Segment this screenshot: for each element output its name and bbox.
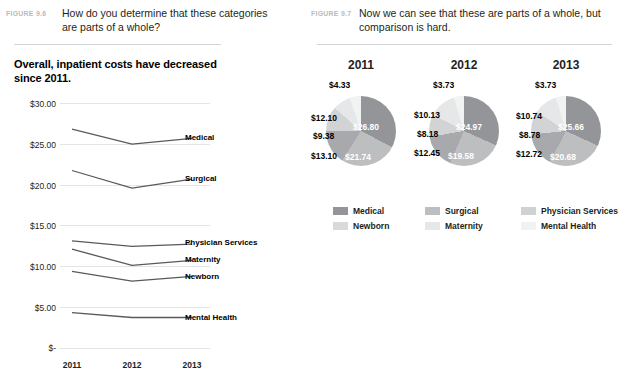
pie-value-surgical-2012: $19.58	[448, 151, 474, 161]
series-label-physician-services: Physician Services	[185, 238, 258, 247]
pie-value-maternity-2011: $12.10	[311, 113, 337, 123]
legend-item-surgical: Surgical	[425, 206, 521, 216]
pie-value-mental-health-2011: $4.33	[329, 80, 350, 90]
legend-item-mental-health: Mental Health	[521, 221, 622, 231]
legend-label-maternity: Maternity	[445, 221, 483, 231]
legend-swatch-medical	[333, 207, 348, 215]
line-series-svg	[0, 0, 311, 386]
pie-value-physician-services-2013: $12.72	[516, 149, 542, 159]
line-chart: $30.00 $25.00 $20.00 $15.00 $10.00 $5.00…	[0, 0, 311, 386]
legend-label-surgical: Surgical	[445, 206, 479, 216]
pie-value-physician-services-2012: $12.45	[414, 148, 440, 158]
pie-value-newborn-2013: $8.78	[519, 130, 540, 140]
pie-value-physician-services-2011: $13.10	[311, 151, 337, 161]
pie-legend: Medical Surgical Physician Services Newb…	[333, 203, 622, 233]
figure-9-7-panel: FIGURE 9.7 Now we can see that these are…	[311, 0, 622, 386]
legend-item-maternity: Maternity	[425, 221, 521, 231]
legend-swatch-physician-services	[521, 207, 536, 215]
legend-label-mental-health: Mental Health	[541, 221, 596, 231]
legend-label-newborn: Newborn	[353, 221, 389, 231]
x-tick-2012: 2012	[112, 360, 152, 370]
pie-value-medical-2011: $26.80	[353, 122, 379, 132]
header-divider	[317, 44, 612, 45]
legend-item-medical: Medical	[333, 206, 425, 216]
pie-value-mental-health-2012: $3.73	[433, 80, 454, 90]
series-label-surgical: Surgical	[185, 174, 217, 183]
series-line-newborn	[72, 271, 192, 281]
pie-value-newborn-2012: $8.18	[417, 129, 438, 139]
figure-9-7-header: FIGURE 9.7 Now we can see that these are…	[311, 7, 622, 34]
figure-caption: Now we can see that these are parts of a…	[359, 7, 609, 34]
series-line-mental-health	[72, 313, 192, 318]
legend-item-newborn: Newborn	[333, 221, 425, 231]
legend-label-physician-services: Physician Services	[541, 206, 618, 216]
pie-value-maternity-2013: $10.74	[516, 111, 542, 121]
x-tick-2013: 2013	[172, 360, 212, 370]
series-label-maternity: Maternity	[185, 255, 221, 264]
pie-value-mental-health-2013: $3.73	[535, 80, 556, 90]
series-label-mental-health: Mental Health	[185, 313, 237, 322]
series-label-medical: Medical	[185, 133, 214, 142]
pie-value-maternity-2012: $10.13	[414, 110, 440, 120]
legend-label-medical: Medical	[353, 206, 384, 216]
figure-number-label: FIGURE 9.7	[311, 7, 355, 18]
figure-9-6-panel: FIGURE 9.6 How do you determine that the…	[0, 0, 311, 386]
pie-value-medical-2013: $25.66	[558, 122, 584, 132]
pie-value-surgical-2011: $21.74	[345, 152, 371, 162]
x-tick-2011: 2011	[52, 360, 92, 370]
series-line-surgical	[72, 171, 192, 189]
legend-swatch-newborn	[333, 222, 348, 230]
legend-swatch-surgical	[425, 207, 440, 215]
legend-swatch-mental-health	[521, 222, 536, 230]
series-label-newborn: Newborn	[185, 272, 219, 281]
legend-item-physician-services: Physician Services	[521, 206, 622, 216]
pie-value-medical-2012: $24.97	[456, 122, 482, 132]
series-line-maternity	[72, 249, 192, 265]
pie-value-surgical-2013: $20.68	[550, 152, 576, 162]
pie-value-newborn-2011: $9.38	[313, 131, 334, 141]
series-line-physician-services	[72, 241, 192, 246]
series-line-medical	[72, 129, 192, 144]
legend-swatch-maternity	[425, 222, 440, 230]
pie-title-2012: 2012	[414, 58, 514, 72]
pie-title-2013: 2013	[516, 58, 616, 72]
pie-title-2011: 2011	[311, 58, 411, 72]
